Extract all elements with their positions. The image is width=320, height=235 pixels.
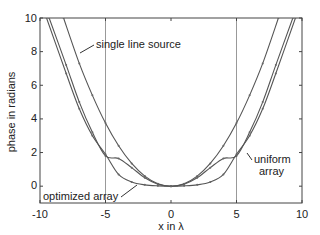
data-point-marker [249,94,251,96]
data-point-marker [118,145,120,147]
data-point-marker [46,17,48,19]
data-point-marker [222,173,224,175]
data-point-marker [275,64,277,66]
data-point-marker [157,185,159,187]
data-point-marker [275,73,277,75]
xtick-label: 0 [168,208,174,220]
data-point-marker [48,17,50,19]
xtick-label: -5 [101,208,111,220]
data-point-marker [78,62,80,64]
annotation-optimized-array: optimized array [43,190,119,202]
y-axis-label: phase in radians [5,71,17,152]
ytick-label: 0 [31,179,37,191]
data-point-marker [249,135,251,137]
data-point-marker [91,94,93,96]
data-point-marker [222,145,224,147]
data-point-marker [292,17,294,19]
x-axis-label: x in λ [158,220,184,232]
data-point-marker [78,108,80,110]
ytick-label: 10 [25,12,37,24]
data-point-marker [236,153,238,155]
annotation-pointer-uniform [247,153,252,160]
ytick-label: 4 [31,112,37,124]
data-point-marker [170,185,172,187]
data-point-marker [262,108,264,110]
data-point-marker [209,181,211,183]
data-point-marker [277,17,279,19]
ytick-label: 2 [31,146,37,158]
data-point-marker [105,122,107,124]
annotation-single-line-source: single line source [96,38,181,50]
data-point-marker [78,101,80,103]
phase-chart: -10 -5 0 5 10 0 2 4 6 8 10 x in λ phase … [0,0,320,235]
data-point-marker [183,185,185,187]
data-point-marker [144,184,146,186]
data-point-marker [294,17,296,19]
data-point-marker [262,62,264,64]
data-point-marker [249,131,251,133]
ytick-label: 8 [31,45,37,57]
data-point-marker [118,173,120,175]
data-point-marker [236,122,238,124]
data-point-marker [222,157,224,159]
data-point-marker [262,101,264,103]
annotation-uniform: uniform [254,153,291,165]
data-point-marker [196,177,198,179]
xtick-label: 5 [233,208,239,220]
xtick-label: 10 [296,208,308,220]
data-point-marker [105,153,107,155]
data-point-marker [209,162,211,164]
annotation-array: array [259,165,285,177]
annotation-pointer-single [80,45,94,53]
ytick-label: 6 [31,79,37,91]
data-point-marker [144,177,146,179]
data-point-marker [196,184,198,186]
xtick-label: -10 [32,208,48,220]
annotation-pointer-optimized [121,185,137,197]
data-point-marker [91,131,93,133]
data-point-marker [118,157,120,159]
data-point-marker [63,17,65,19]
data-point-marker [65,73,67,75]
data-point-marker [131,167,133,169]
data-point-marker [91,135,93,137]
data-point-marker [131,181,133,183]
data-point-marker [131,162,133,164]
data-point-marker [209,167,211,169]
data-point-marker [65,64,67,66]
